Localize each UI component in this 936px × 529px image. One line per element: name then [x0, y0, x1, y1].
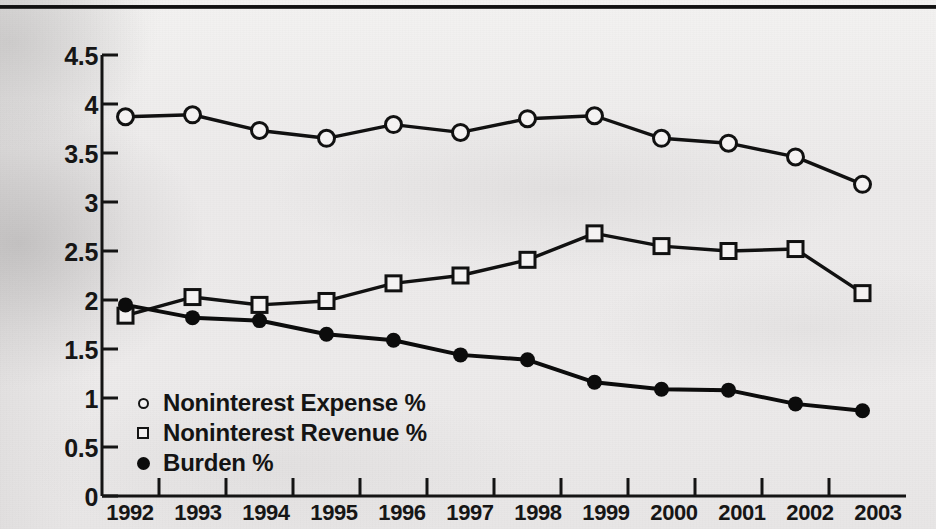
- data-point-open-square: [855, 286, 870, 301]
- data-point-open-square: [520, 252, 535, 267]
- data-point-open-square: [453, 268, 468, 283]
- data-point-open-circle: [118, 109, 134, 125]
- data-point-open-circle: [520, 111, 536, 127]
- data-point-open-circle: [386, 117, 402, 133]
- data-point-filled-circle: [788, 396, 803, 411]
- legend-item-burden: Burden %: [132, 448, 427, 478]
- data-point-open-circle: [788, 149, 804, 165]
- data-point-filled-circle: [319, 327, 334, 342]
- x-axis-ticks: [159, 478, 829, 496]
- y-axis-ticks: [102, 55, 118, 496]
- data-point-open-circle: [654, 130, 670, 146]
- legend-label-noninterest-expense: Noninterest Expense %: [163, 389, 426, 417]
- series-noninterest-revenue: [118, 226, 870, 323]
- chart-figure: 4.5 4 3.5 3 2.5 2 1.5 1 0.5 0 1992 1993 …: [0, 0, 936, 529]
- data-point-open-circle: [319, 130, 335, 146]
- data-point-open-square: [654, 239, 669, 254]
- data-point-open-square: [587, 226, 602, 241]
- data-series-group: [118, 107, 871, 418]
- legend-label-burden: Burden %: [163, 449, 273, 477]
- series-line: [126, 233, 863, 315]
- data-point-filled-circle: [252, 313, 267, 328]
- open-square-marker-icon: [132, 427, 154, 439]
- open-circle-marker-icon: [132, 398, 154, 409]
- series-line: [126, 115, 863, 185]
- data-point-filled-circle: [453, 347, 468, 362]
- data-point-filled-circle: [520, 352, 535, 367]
- chart-legend: Noninterest Expense % Noninterest Revenu…: [132, 388, 427, 478]
- data-point-open-circle: [252, 122, 268, 138]
- data-point-open-square: [252, 297, 267, 312]
- data-point-filled-circle: [654, 382, 669, 397]
- data-point-filled-circle: [386, 333, 401, 348]
- data-point-open-square: [319, 293, 334, 308]
- legend-label-noninterest-revenue: Noninterest Revenue %: [163, 419, 427, 447]
- data-point-open-square: [721, 244, 736, 259]
- legend-item-noninterest-expense: Noninterest Expense %: [132, 388, 427, 418]
- data-point-filled-circle: [185, 310, 200, 325]
- data-point-open-square: [386, 276, 401, 291]
- data-point-open-square: [185, 290, 200, 305]
- data-point-filled-circle: [118, 297, 133, 312]
- data-point-open-circle: [721, 135, 737, 151]
- data-point-open-square: [788, 242, 803, 257]
- data-point-filled-circle: [587, 375, 602, 390]
- data-point-open-circle: [185, 107, 201, 123]
- data-point-open-circle: [855, 176, 871, 192]
- legend-item-noninterest-revenue: Noninterest Revenue %: [132, 418, 427, 448]
- data-point-filled-circle: [855, 403, 870, 418]
- filled-circle-marker-icon: [132, 457, 154, 470]
- data-point-filled-circle: [721, 383, 736, 398]
- series-noninterest-expense: [118, 107, 871, 193]
- data-point-open-circle: [453, 124, 469, 140]
- data-point-open-circle: [587, 108, 603, 124]
